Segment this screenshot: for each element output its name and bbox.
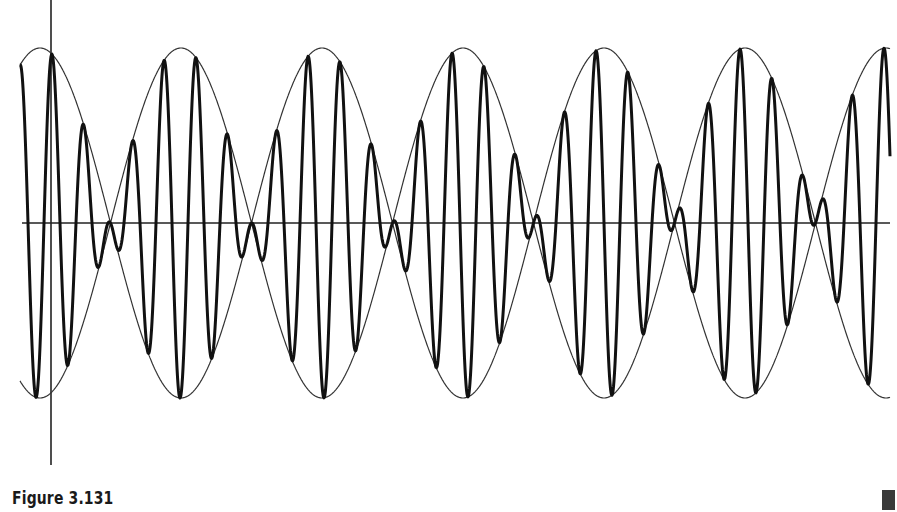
beat-wave-plot	[0, 0, 897, 512]
figure-caption: Figure 3.131	[12, 488, 113, 508]
corner-mark	[882, 490, 895, 510]
